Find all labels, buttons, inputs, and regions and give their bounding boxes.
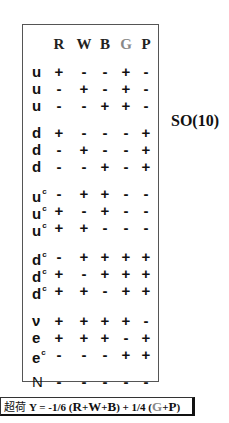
charge-cell: -	[50, 158, 68, 175]
charge-cell: -	[75, 63, 93, 80]
formula-mid: ) + 1/4 (	[116, 401, 152, 413]
charge-cell: +	[75, 248, 93, 265]
charge-cell: -	[117, 329, 135, 346]
charge-cell: -	[117, 185, 135, 202]
table-row: u-+-+-	[23, 80, 160, 97]
charge-cell: -	[117, 124, 135, 141]
particle-label: d	[32, 158, 41, 175]
table-row: uc++---	[23, 219, 160, 236]
charge-cell: +	[137, 158, 155, 175]
charge-cell: +	[75, 329, 93, 346]
so10-label: SO(10)	[171, 112, 219, 130]
table-row: u--++-	[23, 97, 160, 114]
charge-cell: +	[50, 124, 68, 141]
charge-cell: +	[50, 312, 68, 329]
charge-cell: -	[137, 373, 155, 390]
table-row: d--+-+	[23, 158, 160, 175]
charge-cell: +	[96, 248, 114, 265]
charge-cell: +	[75, 80, 93, 97]
particle-label: u	[32, 63, 41, 80]
header-w: W	[75, 36, 93, 53]
charge-cell: -	[96, 141, 114, 158]
particle-label: ec	[32, 346, 46, 366]
charge-cell: -	[75, 265, 93, 282]
formula-b: B	[107, 399, 116, 414]
charge-cell: +	[117, 312, 135, 329]
charge-cell: +	[50, 202, 68, 219]
charge-cell: -	[117, 158, 135, 175]
charge-cell: -	[96, 124, 114, 141]
table-row: dc++-++	[23, 282, 160, 299]
charge-cell: -	[137, 202, 155, 219]
particle-label: u	[32, 97, 41, 114]
charge-cell: +	[96, 158, 114, 175]
charge-cell: -	[50, 185, 68, 202]
charge-cell: -	[75, 373, 93, 390]
table-row: N-----	[23, 373, 160, 390]
charge-cell: -	[96, 80, 114, 97]
charge-cell: -	[75, 124, 93, 141]
charge-cell: +	[137, 265, 155, 282]
charge-cell: -	[50, 141, 68, 158]
charge-cell: -	[96, 346, 114, 363]
table-row: ec---++	[23, 346, 160, 363]
charge-cell: +	[137, 141, 155, 158]
table-row: dc-++++	[23, 248, 160, 265]
charge-cell: +	[50, 63, 68, 80]
charge-cell: +	[117, 346, 135, 363]
table-row: e+++-+	[23, 329, 160, 346]
table-row: uc+-+--	[23, 202, 160, 219]
header-b: B	[96, 36, 114, 53]
formula-y: Y = -1/6 (	[29, 401, 72, 413]
formula-w: W	[88, 399, 101, 414]
header-r: R	[50, 36, 68, 53]
charge-cell: +	[50, 265, 68, 282]
charge-cell: +	[75, 141, 93, 158]
hypercharge-formula: 超荷 Y = -1/6 (R+W+B) + 1/4 (G+P)	[0, 397, 195, 416]
charge-cell: +	[96, 265, 114, 282]
table-row: dc+-+++	[23, 265, 160, 282]
charge-cell: -	[96, 373, 114, 390]
charge-cell: +	[137, 282, 155, 299]
charge-cell: +	[50, 219, 68, 236]
charge-cell: +	[117, 97, 135, 114]
charge-cell: +	[75, 282, 93, 299]
charge-cell: -	[117, 141, 135, 158]
charge-cell: -	[96, 282, 114, 299]
particle-label: d	[32, 124, 41, 141]
charge-cell: -	[117, 373, 135, 390]
charge-cell: +	[96, 202, 114, 219]
charge-cell: +	[137, 346, 155, 363]
formula-g: G	[152, 399, 162, 414]
charge-cell: -	[75, 158, 93, 175]
particle-label: N	[32, 373, 43, 390]
table-row: u+--+-	[23, 63, 160, 80]
charge-cell: +	[50, 282, 68, 299]
charge-cell: +	[137, 329, 155, 346]
charge-cell: +	[117, 265, 135, 282]
charge-cell: +	[117, 248, 135, 265]
charge-cell: -	[137, 312, 155, 329]
charge-cell: -	[96, 63, 114, 80]
charge-cell: -	[96, 219, 114, 236]
header-p: P	[137, 36, 155, 53]
charge-cell: +	[117, 282, 135, 299]
charge-cell: +	[96, 312, 114, 329]
charge-cell: -	[137, 63, 155, 80]
charge-cell: +	[75, 185, 93, 202]
header-g: G	[117, 36, 135, 53]
charge-cell: -	[117, 202, 135, 219]
particle-label: e	[32, 329, 40, 346]
particle-label: dc	[32, 282, 47, 302]
charge-cell: +	[96, 185, 114, 202]
particle-label: ν	[32, 312, 40, 329]
particle-label: uc	[32, 219, 47, 239]
charge-cell: +	[96, 329, 114, 346]
particle-label: u	[32, 80, 41, 97]
charge-cell: +	[137, 124, 155, 141]
charge-cell: +	[117, 63, 135, 80]
charge-cell: +	[137, 248, 155, 265]
charge-cell: -	[137, 185, 155, 202]
charge-cell: -	[137, 80, 155, 97]
charge-cell: -	[117, 219, 135, 236]
